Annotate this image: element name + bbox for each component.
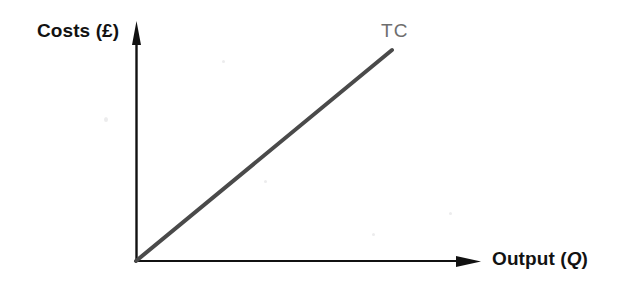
- x-axis-label: Output (Q): [492, 248, 588, 270]
- y-axis-arrowhead: [132, 21, 141, 45]
- tc-series-label: TC: [381, 20, 409, 42]
- tc-line: [136, 50, 392, 261]
- x-axis-label-tail: ): [582, 248, 588, 269]
- y-axis-label: Costs (£): [37, 20, 119, 42]
- x-axis-arrowhead: [456, 256, 481, 267]
- x-axis-label-symbol: Q: [567, 248, 582, 269]
- cost-output-chart: Costs (£) Output (Q) TC: [0, 0, 625, 295]
- x-axis-label-text: Output (: [492, 248, 567, 269]
